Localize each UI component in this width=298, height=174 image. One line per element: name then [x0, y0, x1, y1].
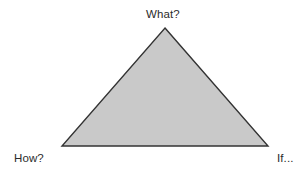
triangle-graphic [0, 0, 298, 174]
diagram-canvas: What? How? If... [0, 0, 298, 174]
triangle-apex-label: What? [146, 8, 180, 21]
triangle-shape [62, 28, 268, 146]
triangle-bottom-left-label: How? [14, 152, 44, 165]
triangle-bottom-right-label: If... [277, 152, 293, 165]
